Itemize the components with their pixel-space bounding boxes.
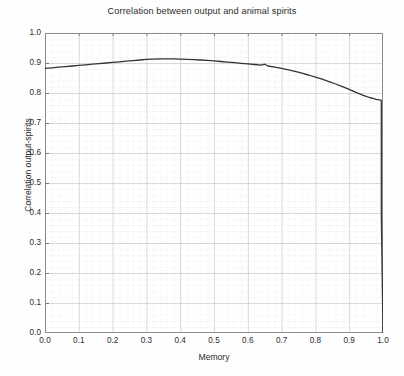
x-tick-label: 0.2 [98, 337, 128, 345]
y-tick-label: 0.9 [15, 59, 41, 67]
y-tick-label: 0.0 [15, 329, 41, 337]
y-tick-label: 0.1 [15, 299, 41, 307]
y-axis-label: Correlation output-spirits [23, 75, 33, 255]
x-tick-label: 0.8 [300, 337, 330, 345]
chart-page: Correlation between output and animal sp… [0, 0, 404, 376]
x-tick-label: 0.9 [334, 337, 364, 345]
x-axis-tick-labels: 0.00.10.20.30.40.50.60.70.80.91.0 [45, 337, 383, 351]
y-tick-label: 1.0 [15, 29, 41, 37]
x-tick-label: 0.1 [64, 337, 94, 345]
chart-title: Correlation between output and animal sp… [0, 6, 404, 16]
y-tick-label: 0.2 [15, 269, 41, 277]
x-tick-label: 0.0 [30, 337, 60, 345]
x-tick-label: 0.3 [131, 337, 161, 345]
x-tick-label: 1.0 [368, 337, 398, 345]
plot-area [45, 33, 383, 333]
x-tick-label: 0.6 [233, 337, 263, 345]
plot-background [45, 33, 383, 333]
x-tick-label: 0.5 [199, 337, 229, 345]
chart-plot-svg [45, 33, 383, 333]
x-axis-label: Memory [45, 352, 383, 362]
x-tick-label: 0.4 [165, 337, 195, 345]
x-tick-label: 0.7 [267, 337, 297, 345]
